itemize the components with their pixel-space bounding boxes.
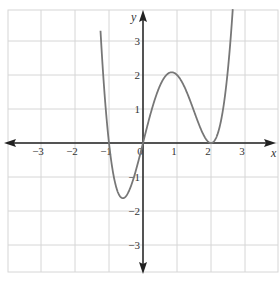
x-tick-label: 3 bbox=[239, 145, 245, 157]
x-axis-label: x bbox=[270, 146, 277, 160]
y-tick-label: 1 bbox=[135, 103, 141, 115]
function-curve bbox=[101, 9, 233, 198]
x-tick-label: 2 bbox=[205, 145, 211, 157]
y-axis-label: y bbox=[130, 10, 137, 24]
x-tick-label: −3 bbox=[32, 145, 44, 157]
y-tick-label: −2 bbox=[128, 205, 140, 217]
x-tick-label: −2 bbox=[66, 145, 78, 157]
y-tick-label: 2 bbox=[135, 69, 141, 81]
y-tick-label: 3 bbox=[135, 35, 141, 47]
y-tick-label: −3 bbox=[128, 239, 140, 251]
function-graph: −3−2−10123−3−2−1123 x y bbox=[0, 0, 280, 282]
axes bbox=[4, 10, 276, 274]
x-tick-label: 1 bbox=[171, 145, 177, 157]
